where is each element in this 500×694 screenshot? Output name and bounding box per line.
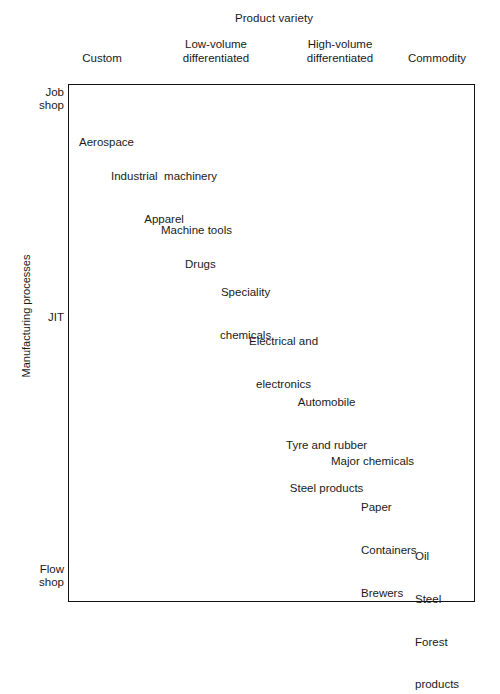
data-label-line: Drugs	[185, 257, 216, 271]
data-label-line: Automobile	[286, 395, 367, 409]
data-label-line: Forest	[415, 635, 459, 649]
data-label-line: Industrial machinery	[111, 169, 217, 183]
plot-area: Aerospace Industrial machinery Apparel M…	[68, 84, 475, 602]
data-label-oil-group: Oil Steel Forest products	[415, 521, 459, 694]
column-header-commodity: Commodity	[378, 52, 496, 66]
column-header-custom: Custom	[42, 52, 162, 66]
data-label-line: Steel	[415, 592, 459, 606]
data-label-line: Brewers	[361, 586, 417, 600]
row-label-flow-shop: Flow shop	[16, 563, 64, 588]
data-label-line: Containers	[361, 543, 417, 557]
data-label-line: products	[415, 677, 459, 691]
top-axis-title: Product variety	[0, 12, 500, 24]
data-label-line: Speciality	[220, 285, 271, 299]
row-label-job-shop: Job shop	[16, 86, 64, 111]
top-axis-title-text: Product variety	[235, 12, 313, 24]
data-label-line: Electrical and	[249, 334, 318, 348]
data-label-line: Paper	[361, 500, 417, 514]
row-label-jit: JIT	[16, 311, 64, 324]
data-label-line: Oil	[415, 549, 459, 563]
data-label-drugs: Drugs	[185, 229, 216, 300]
data-label-paper-group: Paper Containers Brewers	[361, 472, 417, 628]
column-header-low-volume-differentiated: Low-volume differentiated	[148, 38, 284, 65]
data-label-line: Major chemicals	[331, 454, 414, 468]
